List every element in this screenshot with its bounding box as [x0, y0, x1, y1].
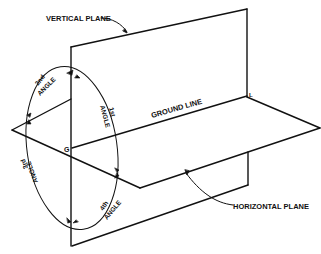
planes-of-projection-diagram: VERTICAL PLANE HORIZONTAL PLANE GROUND L…	[0, 0, 321, 254]
horizontal-plane-leader	[186, 173, 233, 205]
point-l-label: L	[249, 92, 253, 98]
ground-line	[72, 96, 247, 148]
vertical-plane	[71, 9, 248, 246]
point-g-label: G	[64, 146, 70, 153]
svg-text:ANGLE: ANGLE	[24, 160, 39, 184]
horizontal-plane-label: HORIZONTAL PLANE	[233, 202, 309, 211]
vertical-plane-label: VERTICAL PLANE	[46, 14, 111, 23]
angle-3rd-word: ANGLE	[24, 160, 39, 184]
